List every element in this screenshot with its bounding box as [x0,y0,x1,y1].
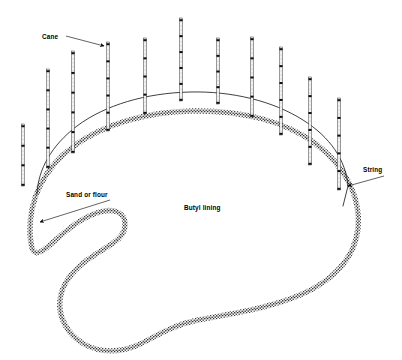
cane-body [338,98,341,190]
cane-node [179,67,182,69]
cane [106,42,109,131]
cane-node [71,92,74,94]
cane-node [279,82,282,84]
cane [250,37,253,117]
cane-node [21,145,24,147]
cane-node [143,57,146,59]
cane-node [21,164,24,166]
cane-node [143,94,146,96]
cane-node [337,170,340,172]
cane [71,51,74,153]
cane-node [308,163,311,165]
cane [308,77,311,165]
cane-node [143,39,146,41]
cane-node [279,133,282,135]
cane [21,124,24,186]
cane [179,18,182,101]
cane-node [216,39,219,41]
cane-node [46,70,49,72]
cane-node [216,86,219,88]
cane [279,47,282,135]
cane-node [46,166,49,168]
leader-line-string [348,176,384,186]
cane-node [308,146,311,148]
cane-node [337,135,340,137]
cane-node [179,99,182,101]
cane-node [337,152,340,154]
label-sand-or-flour: Sand or flour [66,191,108,198]
cane-body [47,69,50,168]
cane-node [216,102,219,104]
cane-node [250,38,253,40]
cane-node [71,131,74,133]
cane-node [250,77,253,79]
label-cane: Cane [42,33,59,40]
cane-node [250,57,253,59]
cane [337,98,340,190]
cane-node [308,129,311,131]
cane-node [337,117,340,119]
cane-node [71,52,74,54]
cane-node [308,95,311,97]
cane-node [143,76,146,78]
cane-node [71,151,74,153]
cane [216,38,219,104]
cane-node [106,129,109,131]
string-line [37,92,348,194]
label-butyl-lining: Butyl lining [184,204,221,212]
cane-node [179,51,182,53]
label-string: String [363,166,382,174]
cane-group [21,18,340,190]
cane-node [279,48,282,50]
cane [46,69,49,168]
diagram-page: Cane Sand or flour Butyl lining String [0,0,402,360]
cane-node [179,19,182,21]
cane-node [106,77,109,79]
cane-node [216,71,219,73]
pond-construction-diagram: Cane Sand or flour Butyl lining String [0,0,402,360]
cane-node [179,35,182,37]
string-tail [343,186,348,206]
cane-node [308,112,311,114]
cane-node [279,65,282,67]
cane-node [250,115,253,117]
cane-node [106,43,109,45]
cane-node [46,89,49,91]
cane-node [71,72,74,74]
cane-node [106,95,109,97]
cane-node [106,60,109,62]
cane-node [308,78,311,80]
cane-node [21,184,24,186]
cane-node [337,188,340,190]
cane-node [21,125,24,127]
cane-node [46,147,49,149]
leader-line-cane [66,36,104,46]
cane-node [337,99,340,101]
cane-node [143,112,146,114]
cane-node [71,111,74,113]
cane-node [216,55,219,57]
cane-body [180,18,183,101]
cane-node [250,96,253,98]
cane-node [46,108,49,110]
cane-node [46,128,49,130]
cane-node [279,99,282,101]
cane-node [106,112,109,114]
cane [143,38,146,114]
cane-node [279,116,282,118]
cane-node [179,83,182,85]
